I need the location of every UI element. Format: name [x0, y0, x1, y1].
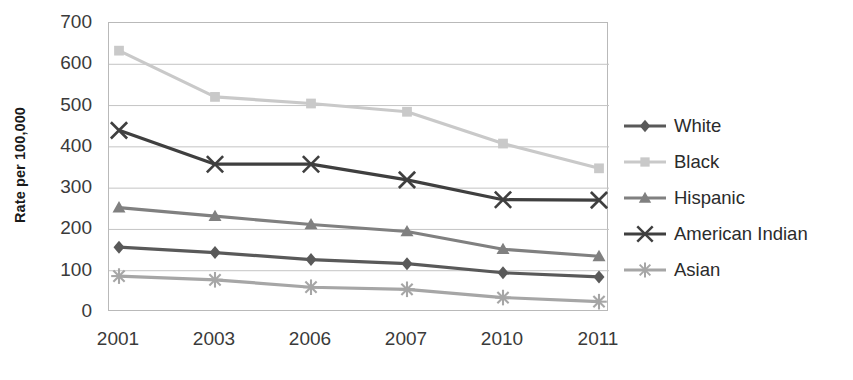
- y-axis-tick-label: 400: [60, 135, 92, 157]
- x-axis-tick-label: 2011: [578, 328, 619, 350]
- y-axis-title: Rate per 100,000: [2, 0, 38, 330]
- x-axis-tick-label: 2006: [289, 328, 331, 350]
- series-line: [119, 130, 599, 200]
- data-point-marker-diamond: [401, 257, 412, 270]
- legend-item-hispanic[interactable]: Hispanic: [622, 180, 850, 216]
- legend-item-asian[interactable]: Asian: [622, 252, 850, 288]
- legend-item-white[interactable]: White: [622, 108, 850, 144]
- y-axis-tick-labels: 7006005004003002001000: [38, 0, 100, 330]
- y-axis-tick-label: 100: [60, 259, 92, 281]
- data-point-marker-square: [594, 163, 604, 173]
- y-axis-tick-label: 0: [81, 300, 92, 322]
- data-point-marker-asterisk: [303, 279, 319, 295]
- series-white: [113, 241, 604, 284]
- series-line: [119, 51, 599, 169]
- y-axis-tick-label: 300: [60, 176, 92, 198]
- data-point-marker-asterisk: [638, 263, 653, 278]
- data-point-marker-diamond: [305, 253, 316, 266]
- legend-swatch-triangle-icon: [622, 187, 668, 209]
- legend-swatch-x-icon: [622, 223, 668, 245]
- data-point-marker-square: [306, 99, 316, 109]
- y-axis-tick-label: 500: [60, 94, 92, 116]
- data-point-marker-diamond: [593, 270, 604, 283]
- series-line: [119, 208, 599, 257]
- legend-swatch-asterisk-icon: [622, 259, 668, 281]
- plot-area: [108, 22, 608, 311]
- y-axis-tick-label: 700: [60, 11, 92, 33]
- legend-label: Hispanic: [674, 187, 745, 209]
- x-axis-tick-label: 2003: [193, 328, 235, 350]
- data-point-marker-diamond: [640, 120, 650, 132]
- legend-item-american-indian[interactable]: American Indian: [622, 216, 850, 252]
- data-point-marker-diamond: [497, 266, 508, 279]
- data-point-marker-x: [111, 122, 127, 138]
- line-chart: Rate per 100,000 7006005004003002001000 …: [0, 0, 853, 380]
- data-point-marker-asterisk: [495, 290, 511, 306]
- plot-svg: [109, 23, 609, 312]
- legend-label: White: [674, 115, 721, 137]
- data-point-marker-asterisk: [399, 281, 415, 297]
- data-point-marker-square: [114, 46, 124, 56]
- data-point-marker-square: [498, 139, 508, 149]
- x-axis-tick-label: 2007: [385, 328, 427, 350]
- gridlines: [109, 64, 609, 270]
- y-axis-tick-label: 200: [60, 217, 92, 239]
- data-point-marker-diamond: [209, 246, 220, 259]
- series-american-indian: [111, 122, 607, 208]
- legend-label: American Indian: [674, 223, 808, 245]
- data-point-marker-asterisk: [207, 272, 223, 288]
- legend-swatch-diamond-icon: [622, 115, 668, 137]
- legend-item-black[interactable]: Black: [622, 144, 850, 180]
- chart-legend: WhiteBlackHispanicAmerican IndianAsian: [622, 108, 850, 288]
- data-point-marker-asterisk: [111, 268, 127, 284]
- legend-label: Black: [674, 151, 719, 173]
- data-point-marker-square: [402, 107, 412, 117]
- y-axis-title-text: Rate per 100,000: [12, 107, 28, 223]
- series-line: [119, 276, 599, 302]
- x-axis-tick-label: 2010: [481, 328, 523, 350]
- legend-label: Asian: [674, 259, 720, 281]
- x-axis-tick-labels: 200120032006200720102011: [108, 318, 608, 358]
- data-point-marker-square: [210, 92, 220, 102]
- data-point-marker-asterisk: [591, 294, 607, 310]
- y-axis-tick-label: 600: [60, 52, 92, 74]
- series-layer: [111, 46, 607, 310]
- x-axis-tick-label: 2001: [97, 328, 139, 350]
- data-point-marker-diamond: [113, 241, 124, 254]
- legend-swatch-square-icon: [622, 151, 668, 173]
- data-point-marker-square: [640, 157, 649, 166]
